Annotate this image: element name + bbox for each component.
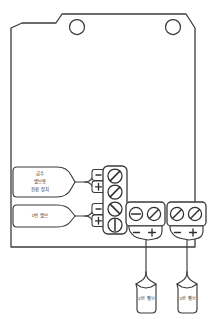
horizontal-terminal-block-left[interactable] bbox=[126, 202, 165, 226]
wiring-diagram-canvas: 급수 밸브용 전환 장치 1번 밸브 bbox=[0, 0, 208, 319]
terminal-screw-v1[interactable] bbox=[108, 169, 122, 183]
terminal-screw-hr2[interactable] bbox=[188, 207, 201, 220]
terminal-screw-hr1[interactable] bbox=[170, 207, 183, 220]
callout-line-2: 밸브용 bbox=[34, 178, 46, 184]
callout-water-supply-valve-controller: 급수 밸브용 전환 장치 bbox=[13, 167, 75, 197]
vertical-terminal-strip[interactable] bbox=[103, 166, 127, 234]
callout-line-3: 전환 장치 bbox=[31, 186, 49, 193]
horizontal-terminal-block-right[interactable] bbox=[167, 202, 206, 226]
terminal-screw-v2[interactable] bbox=[108, 185, 122, 199]
callout-valve-3: 3번 밸브 bbox=[177, 284, 197, 313]
callout-valve-2: 2번 밸브 bbox=[136, 284, 156, 313]
callout-valve-1-label: 1번 밸브 bbox=[32, 212, 49, 218]
terminal-screw-hl1[interactable] bbox=[129, 207, 142, 220]
terminal-screw-v4[interactable] bbox=[108, 218, 122, 232]
callout-valve-2-label: 2번 밸브 bbox=[138, 295, 155, 301]
terminal-screw-hl2[interactable] bbox=[147, 207, 160, 220]
callout-valve-1: 1번 밸브 bbox=[13, 205, 75, 227]
callout-valve-3-label: 3번 밸브 bbox=[179, 295, 196, 301]
terminal-screw-v3[interactable] bbox=[108, 202, 122, 216]
